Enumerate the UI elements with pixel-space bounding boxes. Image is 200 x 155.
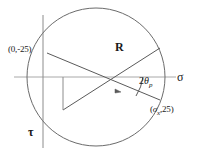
angle-subscript: p [149,81,153,89]
label-point-bottom-right: (σx,25) [150,105,173,117]
mohr-circle-figure: (0,-25) R 2θp σ τ (σx,25) [0,0,200,155]
label-radius-R: R [115,41,124,53]
label-sigma-axis: σ [177,71,183,83]
label-angle-2theta-p: 2θp [139,76,152,89]
coord-rest: ,25) [160,104,173,114]
label-tau-axis: τ [28,126,34,138]
angle-arrowhead [115,89,121,93]
label-point-top-left: (0,-25) [8,45,31,54]
